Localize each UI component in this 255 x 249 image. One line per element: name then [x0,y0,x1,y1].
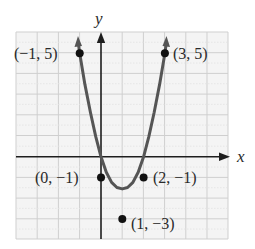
label-3-5: (3, 5) [173,45,208,63]
point-1-neg3 [118,215,126,223]
label-1-neg3: (1, −3) [131,215,175,233]
point-0-neg1 [97,174,105,182]
label-neg1-5: (−1, 5) [14,45,58,63]
y-axis-label: y [93,9,103,28]
point-3-5 [161,49,169,57]
label-0-neg1: (0, −1) [35,169,79,187]
x-axis-label: x [236,147,245,166]
parabola-graph: x y (−1, 5) (3, 5) (0, −1) (2, −1) (1, −… [0,0,255,249]
point-2-neg1 [140,174,148,182]
point-neg1-5 [76,49,84,57]
label-2-neg1: (2, −1) [153,169,197,187]
